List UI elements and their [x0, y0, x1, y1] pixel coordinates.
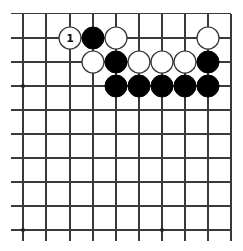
white-stone-disc [105, 27, 127, 49]
white-stone: 1 [59, 27, 81, 49]
white-stone [151, 51, 173, 73]
star-point [21, 228, 25, 232]
white-stone [82, 51, 104, 73]
star-point [21, 84, 25, 88]
go-board: 1 [0, 0, 243, 251]
black-stone [105, 51, 127, 73]
white-stone-disc [151, 51, 173, 73]
black-stone [82, 27, 104, 49]
white-stone-disc [197, 27, 219, 49]
white-stone-disc [128, 51, 150, 73]
white-stone [105, 27, 127, 49]
black-stone [174, 75, 196, 97]
white-stone [197, 27, 219, 49]
black-stone-disc [151, 75, 173, 97]
black-stone-disc [105, 51, 127, 73]
black-stone-disc [197, 75, 219, 97]
black-stone [128, 75, 150, 97]
star-point [160, 228, 164, 232]
black-stone-disc [174, 75, 196, 97]
black-stone-disc [82, 27, 104, 49]
white-stone-disc [174, 51, 196, 73]
move-number-label: 1 [66, 32, 74, 45]
white-stone [128, 51, 150, 73]
black-stone [151, 75, 173, 97]
black-stone [197, 75, 219, 97]
black-stone-disc [128, 75, 150, 97]
black-stone-disc [197, 51, 219, 73]
black-stone [105, 75, 127, 97]
black-stone-disc [105, 75, 127, 97]
black-stone [197, 51, 219, 73]
white-stone-disc [82, 51, 104, 73]
white-stone [174, 51, 196, 73]
